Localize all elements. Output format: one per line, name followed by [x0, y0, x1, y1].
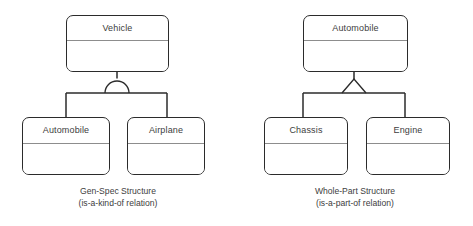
- caption-subtitle: (is-a-part-of relation): [237, 198, 473, 210]
- class-box-automobile[interactable]: Automobile: [303, 15, 408, 72]
- class-box-title: Engine: [367, 118, 449, 144]
- class-box-attributes-compartment: [367, 144, 449, 174]
- caption-subtitle: (is-a-kind-of relation): [0, 198, 236, 210]
- class-box-airplane[interactable]: Airplane: [127, 117, 205, 175]
- class-box-vehicle[interactable]: Vehicle: [66, 15, 169, 72]
- class-box-chassis[interactable]: Chassis: [264, 117, 348, 175]
- class-box-attributes-compartment: [128, 144, 204, 174]
- class-box-attributes-compartment: [304, 41, 407, 71]
- class-box-attributes-compartment: [23, 144, 109, 174]
- class-box-engine[interactable]: Engine: [366, 117, 450, 175]
- diagram-whole-part: Automobile Chassis Engine Whole-Part Str…: [237, 0, 473, 226]
- diagram-gen-spec: Vehicle Automobile Airplane Gen-Spec Str…: [0, 0, 236, 226]
- class-box-title: Automobile: [23, 118, 109, 144]
- generalization-arc-icon: [105, 81, 129, 93]
- caption-whole-part: Whole-Part Structure (is-a-part-of relat…: [237, 186, 473, 209]
- class-box-attributes-compartment: [265, 144, 347, 174]
- class-box-title: Automobile: [304, 16, 407, 41]
- caption-title: Gen-Spec Structure: [0, 186, 236, 198]
- class-box-title: Vehicle: [67, 16, 168, 41]
- class-box-attributes-compartment: [67, 41, 168, 71]
- diagram-canvas: Vehicle Automobile Airplane Gen-Spec Str…: [0, 0, 473, 226]
- caption-gen-spec: Gen-Spec Structure (is-a-kind-of relatio…: [0, 186, 236, 209]
- aggregation-triangle-icon: [342, 79, 366, 93]
- class-box-title: Airplane: [128, 118, 204, 144]
- caption-title: Whole-Part Structure: [237, 186, 473, 198]
- class-box-title: Chassis: [265, 118, 347, 144]
- class-box-automobile[interactable]: Automobile: [22, 117, 110, 175]
